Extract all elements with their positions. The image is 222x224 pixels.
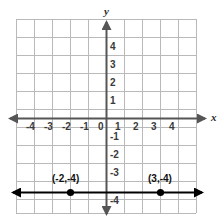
y-tick-label-neg2: -2 bbox=[110, 150, 119, 160]
coordinate-plane-graphic bbox=[0, 0, 222, 224]
y-axis-label: y bbox=[104, 6, 109, 17]
y-tick-label-4: 4 bbox=[110, 42, 116, 52]
y-tick-label-neg4: -4 bbox=[110, 196, 119, 206]
point-label-left: (-2,-4) bbox=[52, 174, 79, 184]
coordinate-plane-figure: y x -4 -3 -2 -1 0 1 2 3 4 4 3 2 1 -1 -2 … bbox=[0, 0, 222, 224]
y-tick-label-1: 1 bbox=[110, 96, 116, 106]
y-tick-label-2: 2 bbox=[110, 78, 116, 88]
plot-point-right bbox=[157, 189, 164, 196]
x-tick-label-3: 3 bbox=[151, 122, 157, 132]
x-tick-label-2: 2 bbox=[133, 122, 139, 132]
point-label-right: (3,-4) bbox=[148, 174, 172, 184]
y-tick-label-neg1: -1 bbox=[110, 132, 119, 142]
x-tick-label-neg2: -2 bbox=[62, 122, 71, 132]
plot-point-left bbox=[67, 189, 74, 196]
x-tick-label-neg1: -1 bbox=[80, 122, 89, 132]
y-tick-label-3: 3 bbox=[110, 60, 116, 70]
x-tick-label-4: 4 bbox=[169, 122, 175, 132]
x-tick-label-neg4: -4 bbox=[26, 122, 35, 132]
x-tick-label-neg3: -3 bbox=[44, 122, 53, 132]
origin-tick-label: 0 bbox=[98, 122, 104, 132]
y-tick-label-neg3: -3 bbox=[110, 168, 119, 178]
x-axis-label: x bbox=[211, 112, 217, 123]
